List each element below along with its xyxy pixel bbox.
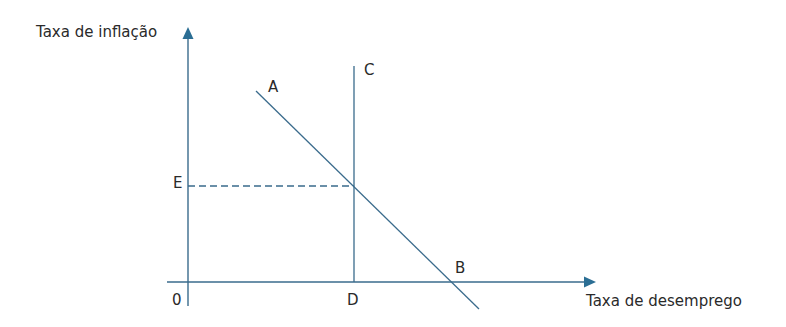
phillips-curve-diagram: Taxa de inflação Taxa de desemprego 0 A … xyxy=(0,0,786,327)
point-label-b: B xyxy=(455,259,465,277)
y-axis-label: Taxa de inflação xyxy=(35,23,157,41)
point-label-d: D xyxy=(347,291,359,309)
point-label-e: E xyxy=(173,174,182,192)
x-axis-arrow-icon xyxy=(584,277,596,288)
point-label-a: A xyxy=(268,78,279,96)
point-label-c: C xyxy=(364,61,374,79)
curve-ab xyxy=(256,91,479,309)
origin-label: 0 xyxy=(172,291,182,309)
x-axis-label: Taxa de desemprego xyxy=(585,292,742,310)
y-axis-arrow-icon xyxy=(183,27,194,39)
